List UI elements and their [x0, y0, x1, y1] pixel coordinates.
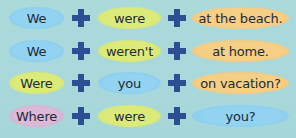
plus-icon: [72, 74, 90, 92]
complement-text: at the beach.: [199, 11, 283, 26]
verb-text: were: [114, 109, 145, 124]
plus-icon: [168, 9, 186, 27]
sentence-row-2: We weren't at home.: [0, 37, 296, 65]
verb-oval: were: [98, 7, 161, 29]
sentence-row-1: We were at the beach.: [0, 4, 296, 32]
plus-icon: [72, 107, 90, 125]
verb-oval: weren't: [98, 40, 161, 62]
complement-text: at home.: [212, 44, 269, 59]
subject-text: you: [118, 76, 141, 91]
verb-oval: Were: [9, 72, 64, 94]
subject-text: We: [27, 11, 47, 26]
verb-text: weren't: [106, 44, 153, 59]
subject-oval: We: [9, 7, 64, 29]
complement-text: on vacation?: [200, 76, 281, 91]
sentence-row-4: Where were you?: [0, 102, 296, 130]
plus-icon: [72, 42, 90, 60]
subject-text: you?: [226, 109, 256, 124]
complement-oval: on vacation?: [192, 72, 289, 94]
verb-oval: were: [98, 105, 161, 127]
subject-text: We: [27, 44, 47, 59]
plus-icon: [168, 74, 186, 92]
verb-text: were: [114, 11, 145, 26]
plus-icon: [168, 42, 186, 60]
subject-oval: We: [9, 40, 64, 62]
subject-oval: you?: [192, 105, 289, 127]
question-word-oval: Where: [9, 105, 64, 127]
question-word-text: Where: [16, 109, 57, 124]
sentence-row-3: Were you on vacation?: [0, 69, 296, 97]
sentence-builder-board: We were at the beach. We weren't at home…: [0, 0, 296, 138]
subject-oval: you: [98, 72, 161, 94]
plus-icon: [168, 107, 186, 125]
verb-text: Were: [20, 76, 52, 91]
plus-icon: [72, 9, 90, 27]
complement-oval: at the beach.: [192, 7, 289, 29]
complement-oval: at home.: [192, 40, 289, 62]
